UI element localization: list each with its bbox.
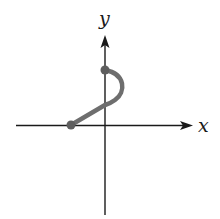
curve-path	[71, 70, 122, 125]
coordinate-plane: x y	[0, 0, 220, 219]
end-point-dot	[101, 66, 110, 75]
y-axis-label: y	[98, 7, 110, 29]
start-point-dot	[67, 121, 76, 130]
x-axis-label: x	[198, 114, 209, 136]
